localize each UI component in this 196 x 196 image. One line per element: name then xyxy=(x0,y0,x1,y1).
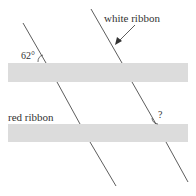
diagram-canvas: white ribbon red ribbon 62° ? xyxy=(0,0,196,196)
ribbons-diagram: white ribbon red ribbon 62° ? xyxy=(0,0,196,196)
right-line-mid xyxy=(132,82,156,124)
left-line-mid xyxy=(57,82,80,124)
white-ribbon-label: white ribbon xyxy=(104,12,160,24)
angle-unknown-label: ? xyxy=(158,109,163,120)
red-ribbon-band xyxy=(8,124,188,142)
left-line-bottom xyxy=(90,142,116,186)
arrowhead-icon xyxy=(115,37,122,45)
right-line-bottom xyxy=(166,142,188,182)
angle-62-label: 62° xyxy=(21,50,35,61)
red-ribbon-label: red ribbon xyxy=(8,111,54,123)
upper-ribbon xyxy=(8,63,188,82)
pointer-arrow xyxy=(118,25,135,42)
